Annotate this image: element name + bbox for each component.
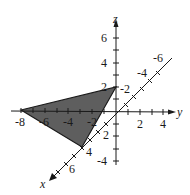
z-tick-2: 2	[101, 81, 107, 93]
z-tick-4: 4	[101, 57, 107, 69]
diagram-canvas: z y x 6 4 2 -4 -8 -6 -4 -2 2 4 2 4 6 -2 …	[0, 0, 190, 195]
x-tick-neg4: -4	[137, 67, 147, 79]
x-tick-neg6: -6	[153, 52, 163, 64]
z-tick-6: 6	[101, 32, 107, 44]
y-tick-neg6: -6	[39, 116, 49, 128]
x-tick-neg2: -2	[120, 83, 130, 95]
y-tick-neg2: -2	[87, 116, 97, 128]
y-tick-neg4: -4	[63, 116, 73, 128]
x-tick-6: 6	[69, 163, 75, 175]
y-axis-arrow-icon	[168, 110, 176, 115]
y-tick-2: 2	[137, 118, 143, 130]
axes-graphic	[0, 0, 190, 195]
z-axis-label: z	[113, 13, 118, 25]
z-tick-neg4: -4	[97, 155, 107, 167]
x-tick-4: 4	[86, 146, 92, 158]
y-tick-4: 4	[160, 118, 166, 130]
x-tick-2: 2	[103, 129, 109, 141]
y-tick-neg8: -8	[15, 116, 25, 128]
x-axis-label: x	[40, 178, 45, 190]
y-axis-label: y	[177, 106, 182, 118]
